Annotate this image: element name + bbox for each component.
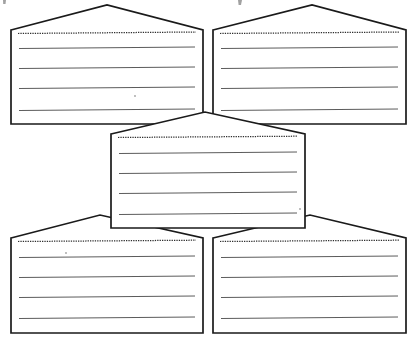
scan-artifact-descender-left [3, 0, 6, 4]
scan-artifact-descender-right [238, 0, 242, 5]
bottom-left-box-outline [11, 215, 203, 333]
top-left-box-outline [11, 5, 203, 124]
center-box-outline [111, 112, 305, 228]
scan-speck-3 [299, 208, 301, 210]
worksheet-canvas: .box-outline { fill: #ffffff; stroke: #1… [0, 0, 416, 341]
top-right-note-box[interactable] [213, 5, 406, 124]
bottom-right-box-outline [213, 215, 406, 333]
bottom-right-note-box[interactable] [213, 215, 406, 333]
worksheet-page: .box-outline { fill: #ffffff; stroke: #1… [0, 0, 416, 341]
bottom-left-note-box[interactable] [11, 215, 203, 333]
top-left-note-box[interactable] [11, 5, 203, 124]
scan-speck-2 [65, 252, 67, 254]
scan-speck-1 [134, 95, 136, 97]
center-note-box[interactable] [111, 112, 305, 228]
top-right-box-outline [213, 5, 406, 124]
